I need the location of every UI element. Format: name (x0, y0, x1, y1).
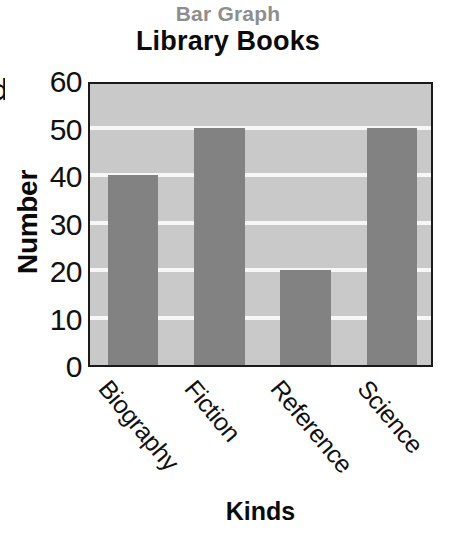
bar (194, 128, 244, 366)
x-axis-tick: Biography (94, 375, 184, 475)
plot-area (88, 82, 433, 367)
y-axis-tick: 20 (24, 257, 82, 287)
bar (108, 175, 158, 365)
y-axis-tick: 10 (24, 305, 82, 335)
x-axis-tick: Reference (266, 375, 358, 477)
bar (367, 128, 417, 366)
y-axis-tick: 50 (24, 115, 82, 145)
y-axis-tick: 60 (24, 67, 82, 97)
clipped-margin-glyph: d (0, 74, 5, 106)
bar-chart-figure: Bar Graph Library Books d Number 6050403… (0, 0, 456, 537)
bar (280, 270, 330, 365)
y-axis-tick: 40 (24, 162, 82, 192)
x-axis-tick-group: BiographyFictionReferenceScience (88, 367, 433, 497)
y-axis-tick: 0 (24, 352, 82, 382)
y-axis-tick-group: 6050403020100 (22, 0, 82, 537)
y-axis-tick: 30 (24, 210, 82, 240)
x-axis-label: Kinds (88, 497, 433, 525)
x-axis-tick: Science (353, 375, 428, 458)
x-axis-tick: Fiction (180, 375, 245, 446)
